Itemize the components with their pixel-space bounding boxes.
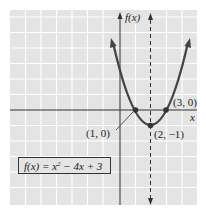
label-2-neg1: (2, −1): [154, 128, 184, 141]
equation-text: f(x) = x2 − 4x + 3: [24, 160, 103, 173]
chart: f(x) x (1, 0) (2, −1) (3, 0) f(x) = x2 −…: [0, 0, 206, 213]
label-1-0: (1, 0): [86, 127, 110, 140]
x-axis-label: x: [189, 111, 195, 123]
point-3-0: [163, 107, 169, 113]
point-1-0: [133, 107, 139, 113]
point-vertex: [148, 123, 154, 129]
label-3-0: (3, 0): [173, 96, 197, 109]
y-axis-label: f(x): [125, 11, 141, 24]
